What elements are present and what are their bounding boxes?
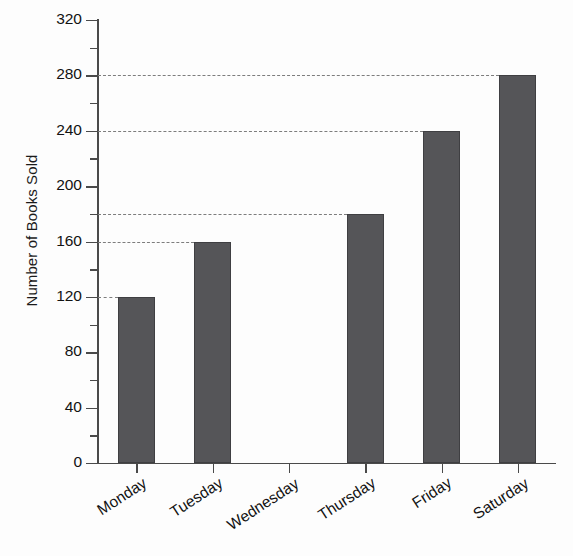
gridline bbox=[98, 131, 423, 132]
x-tick-label: Monday bbox=[94, 474, 150, 519]
y-tick-major bbox=[86, 352, 98, 353]
x-tick bbox=[289, 464, 290, 473]
bar-chart: Number of Books Sold 0408012016020024028… bbox=[0, 0, 573, 556]
y-tick-major bbox=[86, 20, 98, 21]
x-tick bbox=[518, 464, 519, 473]
x-tick bbox=[365, 464, 366, 473]
x-tick-label: Thursday bbox=[315, 474, 379, 524]
bar bbox=[423, 131, 460, 463]
y-tick-major bbox=[86, 408, 98, 409]
y-tick-minor bbox=[90, 380, 98, 381]
y-tick-minor bbox=[90, 48, 98, 49]
y-tick-minor bbox=[90, 435, 98, 436]
gridline bbox=[98, 75, 499, 76]
y-tick-label: 280 bbox=[22, 65, 82, 83]
y-tick-label: 80 bbox=[22, 342, 82, 360]
x-tick-label: Friday bbox=[409, 474, 455, 513]
y-tick-label: 0 bbox=[22, 453, 82, 471]
bar bbox=[118, 297, 155, 463]
y-tick-label: 240 bbox=[22, 121, 82, 139]
x-axis-line bbox=[97, 463, 556, 465]
y-tick-label: 120 bbox=[22, 287, 82, 305]
x-tick-label: Wednesday bbox=[224, 474, 302, 534]
bar bbox=[347, 214, 384, 463]
gridline bbox=[98, 242, 194, 243]
y-tick-major bbox=[86, 131, 98, 132]
x-tick-label: Saturday bbox=[470, 474, 532, 523]
bar bbox=[194, 242, 231, 464]
y-tick-major bbox=[86, 75, 98, 76]
y-tick-major bbox=[86, 242, 98, 243]
y-tick-minor bbox=[90, 325, 98, 326]
y-tick-major bbox=[86, 186, 98, 187]
y-tick-minor bbox=[90, 269, 98, 270]
y-tick-label: 320 bbox=[22, 10, 82, 28]
gridline bbox=[98, 297, 118, 298]
y-tick-major bbox=[86, 297, 98, 298]
bar bbox=[499, 75, 536, 463]
y-tick-major bbox=[86, 463, 98, 464]
x-tick bbox=[213, 464, 214, 473]
y-tick-minor bbox=[90, 103, 98, 104]
y-tick-label: 160 bbox=[22, 232, 82, 250]
x-tick bbox=[136, 464, 137, 473]
y-tick-minor bbox=[90, 158, 98, 159]
x-tick-label: Tuesday bbox=[167, 474, 226, 521]
y-tick-label: 40 bbox=[22, 398, 82, 416]
x-tick bbox=[442, 464, 443, 473]
y-tick-minor bbox=[90, 214, 98, 215]
y-axis-title: Number of Books Sold bbox=[23, 121, 40, 341]
y-tick-label: 200 bbox=[22, 176, 82, 194]
gridline bbox=[98, 214, 347, 215]
